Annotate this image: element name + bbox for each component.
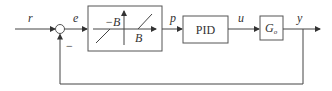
reference-label: r xyxy=(28,11,33,25)
error-label: e xyxy=(73,11,79,25)
control-label: u xyxy=(238,11,244,25)
deadzone-neg-threshold-label: −B xyxy=(105,15,121,29)
deadzone-pos-threshold-label: B xyxy=(135,31,143,45)
summing-junction xyxy=(56,25,65,34)
output-label: y xyxy=(296,11,303,25)
pid-label: PID xyxy=(196,23,216,37)
deadzone-output-label: p xyxy=(169,11,176,25)
block-diagram: r − e −B B p PID u Go y xyxy=(0,0,332,91)
feedback-sign-label: − xyxy=(66,39,73,53)
